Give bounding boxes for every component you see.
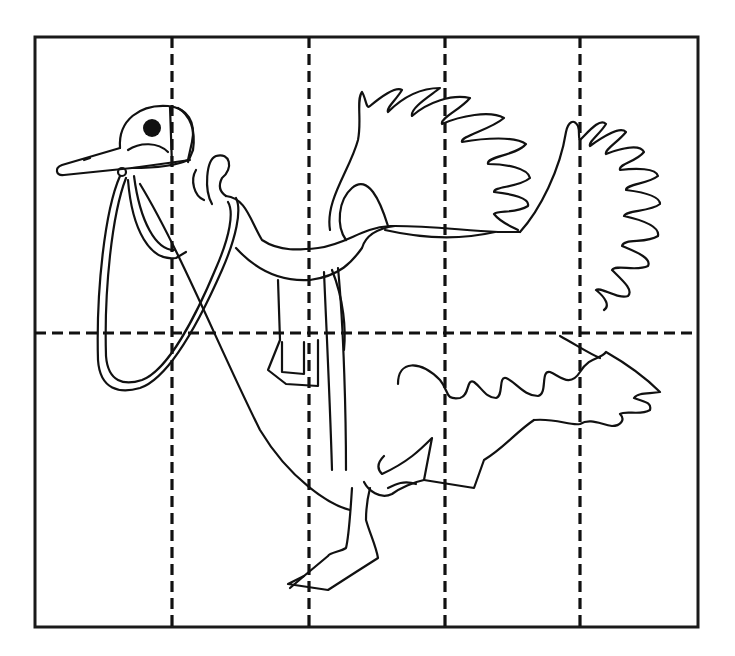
goose-beak <box>57 148 132 175</box>
puzzle-sheet <box>0 0 735 656</box>
goose-wing-right <box>520 122 660 310</box>
cut-lines <box>35 37 698 627</box>
bridle-headstrap <box>132 107 194 168</box>
goose-belly <box>378 420 534 488</box>
goose-drawing <box>57 88 660 590</box>
goose-head <box>120 106 193 168</box>
goose-eye <box>143 119 161 137</box>
goose-wing-left <box>329 88 530 230</box>
goose-tail <box>398 352 660 426</box>
